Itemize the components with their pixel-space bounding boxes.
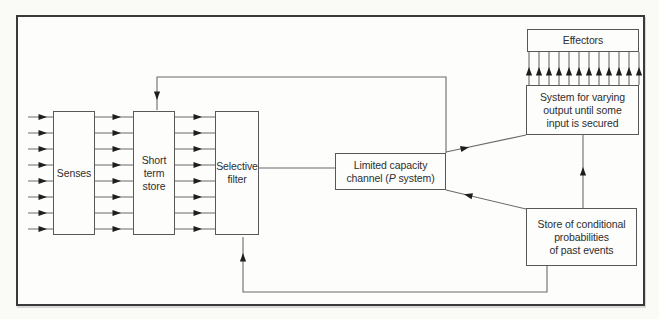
channel-label-p-italic: P xyxy=(389,172,396,184)
conditional-probabilities-store-box: Store of conditional probabilities of pa… xyxy=(526,208,637,266)
short-term-store-label-line2: term xyxy=(144,167,165,180)
selective-filter-label-line2: filter xyxy=(227,173,246,186)
selective-filter-box: Selective filter xyxy=(215,111,259,235)
varying-output-system-box: System for varying output until some inp… xyxy=(526,85,639,135)
varying-output-system-label-line3: input is secured xyxy=(547,117,619,130)
effectors-label: Effectors xyxy=(563,34,603,47)
varying-output-system-label-line2: output until some xyxy=(543,104,621,117)
limited-capacity-channel-label-line1: Limited capacity xyxy=(354,159,428,172)
varying-output-system-label-line1: System for varying xyxy=(540,91,625,104)
short-term-store-box: Short term store xyxy=(133,111,175,235)
conditional-store-label-line3: of past events xyxy=(550,244,614,257)
effectors-box: Effectors xyxy=(527,29,639,52)
conditional-store-label-line1: Store of conditional xyxy=(538,218,626,231)
short-term-store-label-line3: store xyxy=(143,180,166,193)
conditional-store-label-line2: probabilities xyxy=(554,231,609,244)
selective-filter-label-line1: Selective xyxy=(216,160,258,173)
limited-capacity-channel-label-line2: channel (P system) xyxy=(346,172,434,185)
channel-label-prefix: channel ( xyxy=(346,172,388,184)
senses-box: Senses xyxy=(53,111,95,235)
limited-capacity-channel-box: Limited capacity channel (P system) xyxy=(335,153,446,190)
channel-label-suffix: system) xyxy=(396,172,435,184)
senses-label: Senses xyxy=(57,167,91,180)
figure-canvas: Senses Short term store Selective filter… xyxy=(0,0,659,319)
short-term-store-label-line1: Short xyxy=(142,154,167,167)
